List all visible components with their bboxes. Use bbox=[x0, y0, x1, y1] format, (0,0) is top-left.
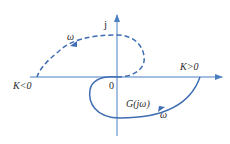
nyquist-diagram: j 0 K<0 K>0 G(jω) ω ω bbox=[0, 0, 230, 144]
nyquist-curve-dashed bbox=[37, 35, 144, 77]
k-positive-label: K>0 bbox=[179, 61, 198, 72]
omega-lower-label: ω bbox=[160, 109, 167, 120]
origin-label: 0 bbox=[109, 80, 114, 91]
transfer-function-label: G(jω) bbox=[126, 98, 150, 110]
imag-axis-label: j bbox=[103, 18, 107, 30]
omega-upper-label: ω bbox=[67, 31, 74, 42]
k-negative-label: K<0 bbox=[12, 80, 31, 91]
